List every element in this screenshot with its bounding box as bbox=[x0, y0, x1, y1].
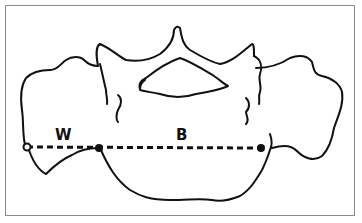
label-b: B bbox=[176, 128, 187, 143]
right-inner-hook bbox=[246, 98, 249, 124]
left-inner-hook bbox=[117, 95, 122, 122]
left-lateral-mass-outline bbox=[21, 57, 98, 174]
vertebra-diagram bbox=[0, 0, 362, 223]
label-w: W bbox=[55, 128, 72, 143]
right-inner-notch bbox=[254, 56, 261, 104]
right-lateral-mass-outline bbox=[256, 56, 342, 159]
middle-point-marker bbox=[95, 144, 103, 152]
measurement-line bbox=[24, 144, 266, 153]
canal-triangle bbox=[139, 58, 228, 97]
vertebral-body-bottom bbox=[100, 134, 272, 201]
left-inner-notch bbox=[100, 64, 107, 104]
right-endpoint-marker bbox=[257, 144, 265, 152]
left-endpoint-marker bbox=[24, 144, 31, 151]
